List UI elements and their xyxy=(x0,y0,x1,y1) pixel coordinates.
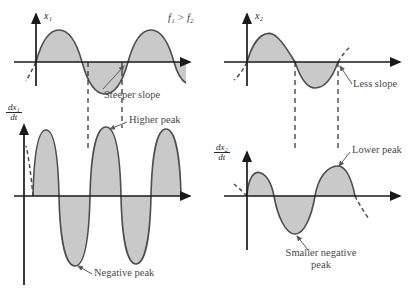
lower-peak-leader xyxy=(339,152,350,166)
frequency-relation-label: f₁ > f₂ xyxy=(168,12,193,23)
dx2-denominator: dt xyxy=(214,152,230,162)
dx2-dashed-extension-right xyxy=(355,196,369,219)
dx1-dt-axis-label: dx₁ dt xyxy=(6,103,22,123)
x2-axis-label: x₂ xyxy=(255,10,263,21)
x1-waveform-fill xyxy=(36,30,82,62)
dx1-waveform-fill-4 xyxy=(121,196,151,264)
panel-bottom-left xyxy=(14,122,190,285)
dx2-waveform-fill-2 xyxy=(274,196,315,234)
dx1-waveform-fill-5 xyxy=(151,129,181,196)
callout-smaller-negative-peak: Smaller negative peak xyxy=(275,247,367,271)
callout-steeper-slope: Steeper slope xyxy=(104,89,160,100)
dx2-waveform-fill-3 xyxy=(315,166,355,196)
callout-less-slope: Less slope xyxy=(353,78,397,89)
dx2-numerator: dx₂ xyxy=(214,143,230,152)
dx1-numerator: dx₁ xyxy=(6,103,22,112)
x1-axis-label: x₁ xyxy=(44,10,52,21)
dx1-dashed-extension-left xyxy=(26,146,33,196)
dx1-waveform-fill-1 xyxy=(33,130,59,196)
dx2-dt-axis-label: dx₂ dt xyxy=(214,143,230,163)
dx1-denominator: dt xyxy=(6,112,22,122)
callout-lower-peak: Lower peak xyxy=(352,144,402,155)
x2-dashed-extension-left xyxy=(234,62,247,80)
x1-dashed-extension-left xyxy=(26,62,36,81)
callout-higher-peak: Higher peak xyxy=(129,114,181,125)
panel-bottom-right xyxy=(224,152,400,250)
x1-waveform-fill-4 xyxy=(174,62,186,83)
dx1-waveform-fill-2 xyxy=(59,196,90,266)
x1-waveform-fill-3 xyxy=(128,30,174,62)
x2-dashed-extension-right xyxy=(338,46,351,62)
callout-negative-peak: Negative peak xyxy=(94,267,154,278)
less-slope-leader xyxy=(340,66,352,84)
dx1-waveform-fill-3 xyxy=(90,127,121,196)
dx2-dashed-extension-left xyxy=(234,184,247,196)
x2-waveform-fill-positive xyxy=(247,33,295,62)
higher-peak-leader xyxy=(110,122,127,129)
negative-peak-leader xyxy=(78,266,92,274)
